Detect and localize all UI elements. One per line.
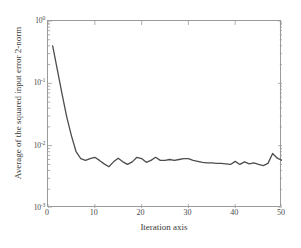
x-tick-label-1: 10 bbox=[90, 208, 98, 217]
data-curve-svg bbox=[48, 21, 282, 208]
y-tick-exponent-0: 0 bbox=[42, 15, 45, 21]
y-tick-exponent-2: -2 bbox=[41, 139, 45, 145]
x-axis-label: Iteration axis bbox=[47, 222, 281, 232]
y-tick-exponent-1: -1 bbox=[41, 77, 45, 83]
x-tick-label-4: 40 bbox=[230, 208, 238, 217]
plot-area bbox=[47, 20, 281, 207]
x-tick-label-0: 0 bbox=[45, 208, 49, 217]
y-tick-label-3: 10-3 bbox=[34, 202, 45, 213]
axis-tick-marks bbox=[48, 21, 282, 208]
y-tick-label-0: 100 bbox=[35, 15, 45, 26]
y-tick-exponent-3: -3 bbox=[41, 202, 45, 208]
data-series-line bbox=[53, 46, 282, 167]
x-axis-tick-labels: 0 10 20 30 40 50 bbox=[47, 208, 281, 222]
y-tick-label-2: 10-2 bbox=[34, 139, 45, 150]
y-tick-label-1: 10-1 bbox=[34, 77, 45, 88]
x-tick-label-2: 20 bbox=[137, 208, 145, 217]
y-axis-label: Average of the squared input error 2-nor… bbox=[13, 3, 23, 203]
x-tick-label-3: 30 bbox=[183, 208, 191, 217]
figure-canvas: 100 10-1 10-2 10-3 0 10 20 30 40 50 Iter… bbox=[0, 0, 301, 248]
x-tick-label-5: 50 bbox=[277, 208, 285, 217]
